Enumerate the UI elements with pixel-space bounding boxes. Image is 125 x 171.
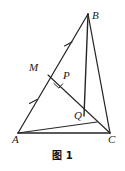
- segment-AQ: [18, 122, 97, 133]
- vertex-label-A: A: [12, 134, 19, 145]
- geometry-figure: A B C M P Q 图 1: [0, 0, 125, 171]
- vertex-label-P: P: [63, 70, 70, 81]
- vertex-label-M: M: [29, 62, 38, 73]
- vertex-label-Q: Q: [74, 110, 82, 121]
- geometry-canvas: [0, 0, 125, 171]
- vertex-label-C: C: [108, 134, 115, 145]
- figure-caption: 图 1: [0, 150, 125, 162]
- vertex-label-B: B: [92, 10, 99, 21]
- segment-BQ: [84, 14, 88, 116]
